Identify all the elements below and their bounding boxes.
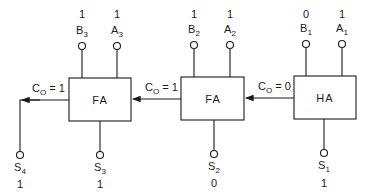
s3-label: S3 bbox=[94, 162, 106, 177]
ha1-label: HA bbox=[316, 92, 333, 104]
a1-value: 1 bbox=[339, 9, 345, 20]
s3-terminal bbox=[97, 152, 104, 159]
a2-value: 1 bbox=[227, 9, 233, 20]
s1-value: 1 bbox=[321, 178, 327, 189]
b3-value: 1 bbox=[79, 9, 85, 20]
b3-terminal bbox=[79, 43, 86, 50]
b2-terminal bbox=[191, 42, 198, 49]
s2-label: S2 bbox=[208, 161, 220, 176]
s4-label: S4 bbox=[14, 162, 26, 177]
b1-terminal bbox=[303, 41, 310, 48]
a2-terminal bbox=[227, 42, 234, 49]
carry-out-to-s4 bbox=[20, 100, 69, 152]
b2-label: B2 bbox=[188, 24, 200, 39]
s4-terminal bbox=[17, 152, 24, 159]
s1-label: S1 bbox=[318, 160, 330, 175]
a2-label: A2 bbox=[224, 24, 236, 39]
fa2-label: FA bbox=[205, 93, 220, 105]
a3-terminal bbox=[114, 43, 121, 50]
s2-terminal bbox=[211, 151, 218, 158]
a1-label: A1 bbox=[336, 23, 348, 38]
fa3-label: FA bbox=[92, 94, 107, 106]
a1-terminal bbox=[339, 41, 346, 48]
a3-value: 1 bbox=[114, 9, 120, 20]
s2-value: 0 bbox=[211, 178, 217, 189]
b2-value: 1 bbox=[191, 9, 197, 20]
s4-value: 1 bbox=[17, 179, 23, 190]
carry-out-ha1-label: CO = 0 bbox=[258, 80, 291, 95]
b3-label: B3 bbox=[76, 25, 88, 40]
carry-out-fa2-label: CO = 1 bbox=[145, 81, 178, 96]
carry-out-fa3-label: CO = 1 bbox=[32, 82, 65, 97]
s3-value: 1 bbox=[97, 179, 103, 190]
a3-label: A3 bbox=[111, 25, 123, 40]
b1-label: B1 bbox=[300, 23, 312, 38]
s1-terminal bbox=[321, 150, 328, 157]
b1-value: 0 bbox=[303, 9, 309, 20]
